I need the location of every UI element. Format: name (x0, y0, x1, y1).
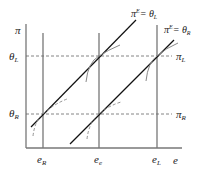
xtick-ee: ee (94, 153, 102, 167)
ytick-thetaR: θR (9, 107, 19, 121)
curve-eR-low (33, 99, 67, 136)
ytick-thetaL: θL (9, 50, 18, 64)
line-label-thetaL: πE= θL (131, 8, 158, 20)
xtick-eR: eR (37, 153, 47, 167)
curve-ee-top (86, 45, 120, 82)
y-axis-label: π (15, 24, 21, 36)
line-piE-thetaL (31, 20, 136, 127)
xtick-eL: eL (152, 153, 161, 167)
curve-eL-top (146, 43, 178, 81)
diagram: π e θL θR πL πR eR ee eL πE= θL πE= θR (0, 0, 201, 172)
line-label-thetaR: πE= θR (164, 24, 191, 36)
right-label-piR: πR (176, 108, 187, 122)
curve-ee-low (87, 102, 121, 139)
x-axis-label: e (173, 154, 178, 166)
diagram-canvas: π e θL θR πL πR eR ee eL πE= θL πE= θR (0, 0, 201, 172)
right-label-piL: πL (176, 50, 186, 64)
